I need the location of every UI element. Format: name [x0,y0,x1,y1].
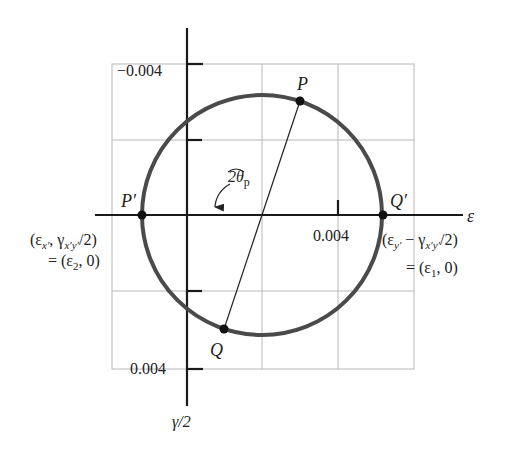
text-part: , γ [49,231,64,249]
text-part: , 0) [79,252,100,270]
right-annotation-line1: (εy′ − γx′y′/2) [382,231,458,251]
label-p-prime: P′ [120,191,137,211]
label-q: Q [210,340,223,360]
vertical-axis-label: γ/2 [172,413,191,431]
point-q-prime [379,211,388,220]
label-q-prime: Q′ [390,191,408,211]
grid [112,64,414,369]
angle-label-main: 2θ [228,168,244,185]
text-part: − γ [401,231,425,249]
text-part: /2) [440,231,458,249]
text-part: (ε [382,231,394,249]
mohr-circle-diagram: −0.004 0.004 0.004 ε γ/2 P Q P′ Q′ 2θp (… [0,0,521,459]
label-p: P [296,74,308,94]
subscript: x′y′ [424,239,440,251]
grid-border [112,64,414,369]
subscript: x′y′ [63,239,79,251]
tick-label-bottom: 0.004 [130,360,166,377]
text-part: = (ε [406,259,431,277]
horizontal-axis-label: ε [467,206,475,226]
point-q [220,325,229,334]
text-part: (ε [30,231,42,249]
text-part: = (ε [48,252,73,270]
text-part: /2) [79,231,97,249]
tick-label-top: −0.004 [117,62,162,79]
axes [95,28,463,406]
angle-arrow [215,184,230,207]
angle-label-subscript: p [244,175,250,189]
left-annotation-line1: (εx′, γx′y′/2) [30,231,97,251]
text-part: , 0) [437,259,458,277]
left-annotation-line2: = (ε2, 0) [48,252,100,272]
point-p [296,97,305,106]
angle-label: 2θp [228,168,250,189]
point-p-prime [138,211,147,220]
tick-label-right: 0.004 [313,227,349,244]
